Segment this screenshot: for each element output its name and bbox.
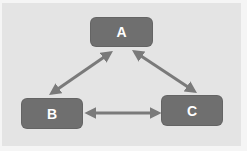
- node-a-label: A: [116, 24, 126, 40]
- node-b-label: B: [47, 106, 57, 122]
- node-c-label: C: [187, 103, 197, 119]
- node-c: C: [162, 96, 222, 125]
- edge-a-b-arrow: [52, 53, 110, 93]
- node-b: B: [22, 99, 82, 128]
- edge-a-c-arrow: [135, 52, 194, 91]
- diagram-frame: A B C: [0, 0, 247, 151]
- node-a: A: [91, 18, 152, 46]
